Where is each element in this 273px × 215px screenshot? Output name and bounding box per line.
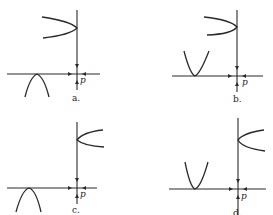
panel-label: a.	[72, 93, 80, 103]
panel-b: p b.	[172, 10, 263, 104]
panel-a: p a.	[7, 10, 100, 103]
panel-label: b.	[233, 94, 242, 104]
point-label: p	[241, 191, 247, 201]
downward-parabola	[16, 188, 41, 212]
left-opening-parabola	[42, 17, 77, 38]
upward-parabola	[184, 51, 209, 76]
panel-label: d.	[233, 208, 242, 215]
panel-label: c.	[72, 205, 80, 215]
diagram-canvas: p a. p b. p c.	[0, 0, 273, 215]
right-opening-parabola	[238, 130, 265, 151]
downward-parabola	[25, 74, 49, 97]
panel-d: p d.	[169, 118, 266, 215]
point-label: p	[242, 77, 248, 87]
upward-parabola	[185, 162, 208, 189]
left-opening-parabola	[204, 17, 237, 35]
panel-c: p c.	[7, 122, 104, 215]
point-label: p	[80, 75, 86, 85]
right-opening-parabola	[77, 130, 104, 147]
point-label: p	[80, 189, 86, 199]
